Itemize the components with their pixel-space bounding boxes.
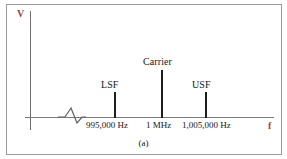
- tick-label-carrier: 1 MHz: [146, 120, 171, 130]
- figure-caption: (a): [0, 138, 287, 148]
- spectral-line-usf: [205, 92, 207, 118]
- x-axis-label: f: [268, 120, 271, 131]
- tick-label-lsf: 995,000 Hz: [86, 120, 128, 130]
- spectrum-figure: LSF Carrier USF 995,000 Hz 1 MHz 1,005,0…: [0, 0, 287, 159]
- page-frame-left: [6, 4, 7, 155]
- spectral-line-carrier: [161, 70, 163, 118]
- tick-label-usf: 1,005,000 Hz: [182, 120, 231, 130]
- axis-break-icon: [58, 104, 86, 124]
- page-frame-top: [6, 4, 282, 5]
- label-usf: USF: [192, 79, 211, 90]
- page-frame-right: [281, 4, 282, 155]
- page-frame-bottom: [6, 154, 282, 155]
- spectral-line-lsf: [114, 92, 116, 118]
- label-lsf: LSF: [101, 79, 119, 90]
- label-carrier: Carrier: [143, 56, 172, 67]
- y-axis-line: [30, 11, 31, 130]
- y-axis-label: V: [17, 8, 24, 19]
